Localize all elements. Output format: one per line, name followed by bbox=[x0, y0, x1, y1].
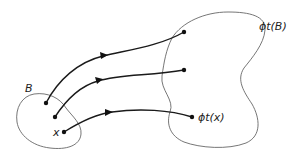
region-B bbox=[17, 94, 81, 149]
end-point-phi-t-x bbox=[190, 115, 194, 119]
region-phi-t-B bbox=[162, 12, 265, 147]
trajectory-3 bbox=[64, 110, 192, 132]
trajectory-2 bbox=[55, 70, 184, 117]
label-x: x bbox=[52, 126, 60, 139]
start-point-2 bbox=[53, 115, 57, 119]
label-phi-t-B: ϕt(B) bbox=[259, 20, 287, 33]
end-point-1 bbox=[182, 30, 186, 34]
end-point-2 bbox=[182, 68, 186, 72]
flow-diagram: B ϕt(B) x ϕt(x) bbox=[0, 0, 299, 154]
start-point-x bbox=[62, 130, 66, 134]
start-point-1 bbox=[44, 101, 48, 105]
arrow-icon bbox=[100, 52, 108, 59]
arrow-icon bbox=[105, 109, 113, 116]
label-B: B bbox=[25, 82, 33, 95]
label-phi-t-x: ϕt(x) bbox=[198, 111, 225, 124]
